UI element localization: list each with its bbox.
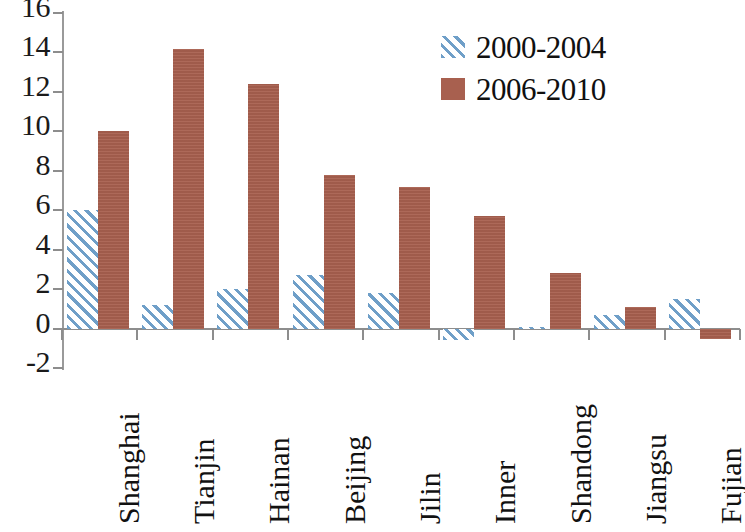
bar-shanghai-2000-2004 bbox=[67, 210, 98, 328]
legend-swatch-icon-2000-2004 bbox=[441, 36, 465, 58]
x-axis-category-label-fujian: Fujian bbox=[716, 447, 745, 524]
legend-label-series-1: 2000-2004 bbox=[476, 32, 606, 63]
y-axis-tick-label: 14 bbox=[2, 31, 50, 61]
y-axis-tick-label: 8 bbox=[2, 150, 50, 180]
bar-shanghai-2006-2010 bbox=[98, 131, 129, 328]
bar-shandong-2006-2010 bbox=[550, 273, 581, 328]
bar-beijing-2000-2004 bbox=[293, 275, 324, 328]
plot-area bbox=[62, 13, 740, 368]
x-axis-category-label-jilin: Jilin bbox=[415, 472, 445, 524]
legend-label-series-2: 2006-2010 bbox=[476, 74, 606, 105]
bar-hainan-2006-2010 bbox=[248, 84, 279, 329]
x-axis-category-label-hainan: Hainan bbox=[264, 437, 294, 524]
y-axis-tick-label: 0 bbox=[2, 308, 50, 338]
legend-swatch-icon-2006-2010 bbox=[441, 78, 465, 100]
bar-fujian-2000-2004 bbox=[669, 299, 700, 329]
y-axis-tick-label: 2 bbox=[2, 268, 50, 298]
y-axis-tick-label: 6 bbox=[2, 189, 50, 219]
y-axis-tick-label: 12 bbox=[2, 71, 50, 101]
bar-tianjin-2006-2010 bbox=[173, 49, 204, 329]
bar-inner-2000-2004 bbox=[443, 329, 474, 341]
y-axis-tick-label: 10 bbox=[2, 110, 50, 140]
bar-beijing-2006-2010 bbox=[324, 175, 355, 329]
bar-chart: 1614121086420-2 ShanghaiTianjinHainanBei… bbox=[0, 0, 745, 532]
y-axis-labels: 1614121086420-2 bbox=[0, 0, 50, 532]
x-axis-category-label-inner: Inner bbox=[490, 461, 520, 524]
bar-hainan-2000-2004 bbox=[217, 289, 248, 328]
legend-item-series-1: 2000-2004 bbox=[441, 26, 606, 68]
y-axis-tick-label: -2 bbox=[2, 347, 50, 377]
x-axis-category-label-beijing: Beijing bbox=[340, 436, 370, 524]
bar-tianjin-2000-2004 bbox=[142, 305, 173, 329]
bar-jilin-2006-2010 bbox=[399, 187, 430, 329]
x-axis-category-label-shandong: Shandong bbox=[566, 404, 596, 524]
legend-item-series-2: 2006-2010 bbox=[441, 68, 606, 110]
y-axis-tick-label: 16 bbox=[2, 0, 50, 22]
x-axis-category-label-shanghai: Shanghai bbox=[114, 412, 144, 524]
chart-legend: 2000-2004 2006-2010 bbox=[441, 26, 606, 110]
bar-shandong-2000-2004 bbox=[519, 327, 550, 329]
bar-jiangsu-2000-2004 bbox=[594, 315, 625, 329]
x-axis-category-label-jiangsu: Jiangsu bbox=[641, 434, 671, 524]
x-axis-category-label-tianjin: Tianjin bbox=[189, 438, 219, 524]
bar-fujian-2006-2010 bbox=[700, 329, 731, 340]
y-axis-tick-label: 4 bbox=[2, 229, 50, 259]
bar-jiangsu-2006-2010 bbox=[625, 307, 656, 329]
bar-jilin-2000-2004 bbox=[368, 293, 399, 329]
bar-inner-2006-2010 bbox=[474, 216, 505, 328]
